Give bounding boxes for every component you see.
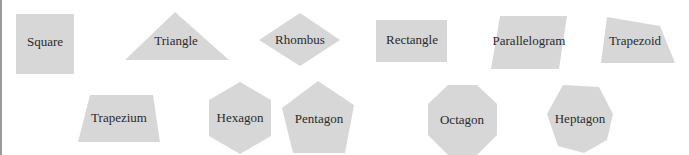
shape-trapezoid: Trapezoid (601, 17, 675, 63)
shape-heptagon: Heptagon (547, 85, 613, 153)
shape-label-heptagon: Heptagon (555, 111, 606, 126)
shape-triangle: Triangle (125, 12, 229, 60)
shape-square: Square (16, 14, 74, 74)
shape-pentagon: Pentagon (282, 81, 354, 153)
shape-label-rhombus: Rhombus (275, 32, 325, 47)
shape-parallelogram: Parallelogram (491, 16, 567, 69)
shape-hexagon: Hexagon (209, 82, 271, 154)
shapes-canvas: Square Triangle Rhombus Rectangle Parall… (0, 0, 689, 155)
shape-label-hexagon: Hexagon (217, 110, 264, 125)
shape-rhombus: Rhombus (259, 13, 340, 66)
shape-label-pentagon: Pentagon (295, 111, 344, 126)
shape-label-triangle: Triangle (154, 33, 198, 48)
shape-rectangle: Rectangle (376, 20, 447, 62)
shape-octagon: Octagon (428, 85, 497, 155)
shape-label-octagon: Octagon (440, 112, 485, 127)
shape-label-square: Square (27, 34, 63, 49)
shape-label-trapezium: Trapezium (91, 110, 147, 125)
shape-trapezium: Trapezium (78, 95, 160, 142)
shape-label-trapezoid: Trapezoid (609, 33, 662, 48)
shapes-diagram: Square Triangle Rhombus Rectangle Parall… (0, 0, 689, 155)
shape-label-rectangle: Rectangle (386, 32, 438, 47)
shape-label-parallelogram: Parallelogram (493, 33, 566, 48)
